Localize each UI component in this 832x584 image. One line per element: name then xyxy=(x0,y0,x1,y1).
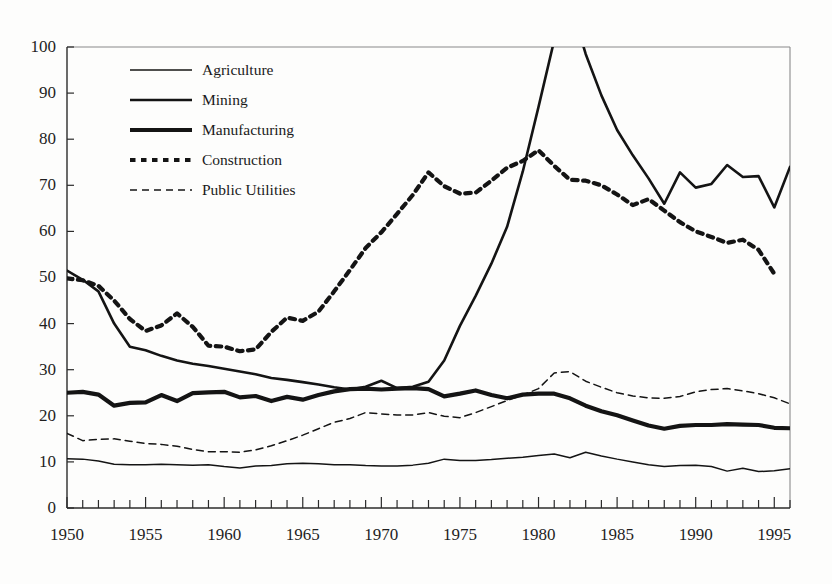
x-axis-ticks: 1950195519601965197019751980198519901995 xyxy=(50,497,791,544)
plot-frame xyxy=(67,47,790,508)
y-tick-label: 100 xyxy=(31,37,57,56)
x-tick-label: 1955 xyxy=(129,525,163,544)
series-line-manufacturing xyxy=(67,388,790,429)
legend-label-mining: Mining xyxy=(202,91,248,108)
x-tick-label: 1985 xyxy=(600,525,634,544)
y-tick-label: 90 xyxy=(39,83,56,102)
legend-label-construction: Construction xyxy=(202,151,282,168)
legend-label-agriculture: Agriculture xyxy=(202,61,274,78)
series-line-construction xyxy=(67,150,774,351)
series-line-public-utilities xyxy=(67,372,790,453)
y-tick-label: 40 xyxy=(39,314,56,333)
x-tick-label: 1950 xyxy=(50,525,84,544)
series-line-mining xyxy=(67,1,790,390)
x-tick-label: 1975 xyxy=(443,525,477,544)
x-tick-label: 1970 xyxy=(364,525,398,544)
x-tick-label: 1995 xyxy=(757,525,791,544)
y-tick-label: 50 xyxy=(39,267,56,286)
x-tick-label: 1960 xyxy=(207,525,241,544)
x-tick-label: 1990 xyxy=(679,525,713,544)
y-tick-label: 30 xyxy=(39,360,56,379)
series-line-agriculture xyxy=(67,452,790,471)
y-tick-label: 0 xyxy=(48,498,57,517)
chart-legend: AgricultureMiningManufacturingConstructi… xyxy=(130,61,295,198)
y-tick-label: 20 xyxy=(39,406,56,425)
y-tick-label: 60 xyxy=(39,221,56,240)
y-tick-label: 80 xyxy=(39,129,56,148)
x-tick-label: 1980 xyxy=(522,525,556,544)
chart-figure: 0102030405060708090100 19501955196019651… xyxy=(0,0,832,584)
line-chart-canvas: 0102030405060708090100 19501955196019651… xyxy=(0,0,832,584)
y-tick-label: 70 xyxy=(39,175,56,194)
legend-label-manufacturing: Manufacturing xyxy=(202,121,294,138)
x-tick-label: 1965 xyxy=(286,525,320,544)
y-tick-label: 10 xyxy=(39,452,56,471)
legend-label-public-utilities: Public Utilities xyxy=(202,181,295,198)
data-series-group xyxy=(67,1,790,472)
